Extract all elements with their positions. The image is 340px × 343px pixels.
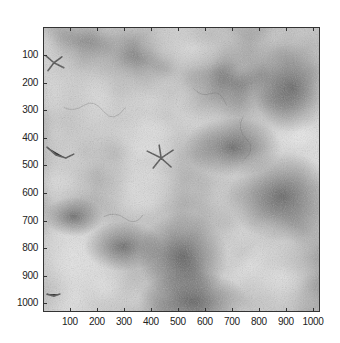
x-tickmark-top — [232, 27, 233, 31]
y-tickmark — [43, 276, 47, 277]
x-tickmark — [259, 308, 260, 312]
x-tickmark-top — [205, 27, 206, 31]
x-tickmark-top — [97, 27, 98, 31]
x-tickmark — [313, 308, 314, 312]
y-tickmark — [43, 221, 47, 222]
x-tick-label: 300 — [109, 316, 139, 327]
x-tick-label: 500 — [163, 316, 193, 327]
y-tickmark — [43, 110, 47, 111]
y-tickmark — [43, 83, 47, 84]
x-tickmark — [151, 308, 152, 312]
x-tick-label: 1000 — [298, 316, 328, 327]
x-tick-label: 100 — [55, 316, 85, 327]
y-tickmark — [43, 165, 47, 166]
y-tick-label: 600 — [0, 187, 38, 198]
x-tick-label: 600 — [190, 316, 220, 327]
x-tickmark-top — [286, 27, 287, 31]
x-tickmark — [232, 308, 233, 312]
y-tick-label: 700 — [0, 215, 38, 226]
y-tickmark — [43, 138, 47, 139]
grayscale-texture-image — [44, 28, 319, 311]
x-tickmark-top — [178, 27, 179, 31]
y-tickmark — [43, 248, 47, 249]
y-tick-label: 900 — [0, 270, 38, 281]
x-tick-label: 900 — [271, 316, 301, 327]
y-tick-label: 500 — [0, 159, 38, 170]
x-tickmark-top — [313, 27, 314, 31]
y-tick-label: 400 — [0, 132, 38, 143]
x-tickmark — [205, 308, 206, 312]
x-tick-label: 700 — [217, 316, 247, 327]
x-tickmark-top — [124, 27, 125, 31]
y-tickmark — [43, 55, 47, 56]
x-tickmark — [97, 308, 98, 312]
faded-background-text — [0, 0, 340, 26]
x-tickmark — [286, 308, 287, 312]
x-tickmark-top — [151, 27, 152, 31]
y-tick-label: 800 — [0, 242, 38, 253]
x-tick-label: 800 — [244, 316, 274, 327]
y-tickmark — [43, 303, 47, 304]
y-tick-label: 200 — [0, 77, 38, 88]
x-tickmark — [70, 308, 71, 312]
y-tick-label: 300 — [0, 104, 38, 115]
y-tickmark — [43, 193, 47, 194]
x-tickmark — [124, 308, 125, 312]
x-tickmark-top — [259, 27, 260, 31]
x-tick-label: 400 — [136, 316, 166, 327]
y-tick-label: 100 — [0, 49, 38, 60]
x-tick-label: 200 — [82, 316, 112, 327]
y-tick-label: 1000 — [0, 297, 38, 308]
image-plot-area — [43, 27, 320, 312]
x-tickmark — [178, 308, 179, 312]
x-tickmark-top — [70, 27, 71, 31]
